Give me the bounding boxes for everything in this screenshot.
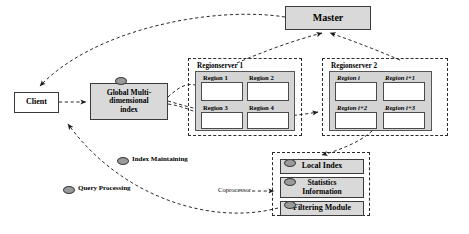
oval-icon-filtering-module xyxy=(284,201,296,209)
node-client[interactable]: Client xyxy=(14,92,59,113)
node-client-label: Client xyxy=(26,98,47,107)
global-index-line-3: index xyxy=(107,106,152,114)
region-label-region-1: Region 1 xyxy=(203,74,228,81)
region-label-region-4: Region 4 xyxy=(249,104,274,111)
region-box-region-2[interactable] xyxy=(247,82,289,101)
region-box-region-1[interactable] xyxy=(201,82,243,101)
oval-icon-global-index xyxy=(115,77,127,85)
oval-icon-legend-query-processing xyxy=(63,186,75,194)
diagram-canvas: Master Client Global Multi- dimensional … xyxy=(0,0,469,234)
region-label-region-i-plus-1: Region i+1 xyxy=(385,74,415,81)
node-global-multidimensional-index[interactable]: Global Multi- dimensional index xyxy=(90,83,168,120)
region-box-region-i[interactable] xyxy=(335,82,377,101)
node-master-label: Master xyxy=(313,13,344,24)
legend-label-index-maintaining: Index Maintaining xyxy=(132,155,188,163)
region-label-region-i-plus-3: Region i+3 xyxy=(385,104,415,111)
region-box-region-i-plus-2[interactable] xyxy=(335,112,377,129)
edge-rs2-to-master xyxy=(330,33,400,60)
region-box-region-i-plus-3[interactable] xyxy=(383,112,425,129)
region-box-region-3[interactable] xyxy=(201,112,243,129)
coprocessor-label: Coprocessor xyxy=(218,186,251,193)
node-local-index-label: Local Index xyxy=(302,162,343,171)
statistics-line-2: Information xyxy=(302,188,342,196)
region-label-region-3: Region 3 xyxy=(203,104,228,111)
region-box-region-i-plus-1[interactable] xyxy=(383,82,425,101)
node-filtering-module-label: Filtering Module xyxy=(293,204,351,213)
edge-filtering-to-client xyxy=(68,124,278,213)
regionserver-1-title: Regionserver 1 xyxy=(197,62,243,70)
oval-icon-local-index xyxy=(284,159,296,167)
node-master[interactable]: Master xyxy=(285,6,371,30)
oval-icon-statistics xyxy=(284,178,296,186)
region-label-region-i-plus-2: Region i+2 xyxy=(337,104,367,111)
oval-icon-legend-index-maintaining xyxy=(117,157,129,165)
regionserver-2-title: Regionserver 2 xyxy=(331,62,377,70)
region-box-region-4[interactable] xyxy=(247,112,289,129)
region-label-region-i: Region i xyxy=(337,74,360,81)
region-label-region-2: Region 2 xyxy=(249,74,274,81)
legend-label-query-processing: Query Processing xyxy=(78,184,131,192)
